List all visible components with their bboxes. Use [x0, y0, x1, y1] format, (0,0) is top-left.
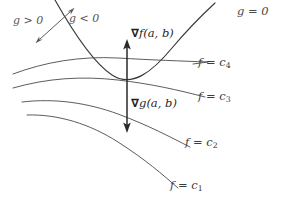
nabla-icon-g: ∇ — [131, 96, 139, 110]
level-curve-c3 — [13, 78, 205, 97]
label-level-c3-lhs: f = c — [198, 89, 226, 103]
label-level-c2: f = c2 — [185, 137, 218, 150]
level-curve-c1 — [27, 115, 178, 188]
label-level-c2-lhs: f = c — [185, 135, 213, 149]
nabla-icon-f: ∇ — [131, 26, 139, 40]
label-level-c1-sub: 1 — [198, 184, 203, 193]
label-level-c4: f = c4 — [198, 57, 231, 70]
label-level-c2-sub: 2 — [213, 141, 218, 150]
label-g-zero: g = 0 — [237, 6, 269, 18]
label-level-c1-lhs: f = c — [170, 178, 198, 192]
label-level-c3-sub: 3 — [226, 95, 231, 104]
sign-arrow-shaft — [40, 12, 71, 40]
lagrange-multiplier-diagram: g > 0 g < 0 g = 0 ∇f(a, b) ∇g(a, b) f = … — [0, 0, 283, 207]
label-level-c3: f = c3 — [198, 91, 231, 104]
label-gradient-f: ∇f(a, b) — [131, 28, 174, 40]
label-g-positive-text: g > 0 — [13, 14, 43, 27]
label-level-c4-sub: 4 — [226, 61, 231, 70]
label-gradient-f-text: f(a, b) — [139, 26, 174, 40]
label-level-c4-lhs: f = c — [198, 55, 226, 69]
label-g-zero-text: g = 0 — [237, 4, 269, 18]
label-g-negative-text: g < 0 — [69, 12, 99, 25]
label-g-negative: g < 0 — [69, 13, 99, 24]
label-gradient-g-text: g(a, b) — [139, 96, 177, 110]
label-gradient-g: ∇g(a, b) — [131, 98, 177, 110]
label-g-positive: g > 0 — [13, 15, 43, 26]
label-level-c1: f = c1 — [170, 180, 203, 193]
level-curve-c4 — [13, 58, 208, 74]
